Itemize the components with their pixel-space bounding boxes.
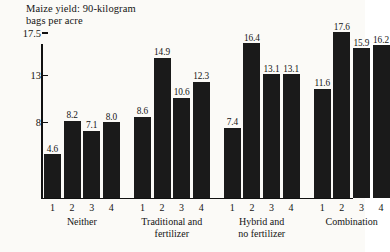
bar-value-label: 8.6 [137,106,148,116]
bar [173,98,190,198]
group-label: Hybrid and no fertilizer [238,216,285,239]
bar-value-label: 14.9 [154,47,170,57]
x-tick-label: 2 [249,202,254,213]
y-tick-mark [42,32,48,34]
bar-value-label: 17.6 [334,22,350,32]
bar-value-label: 13.1 [264,64,280,74]
bar-value-label: 8.0 [106,112,117,122]
bar-value-label: 8.2 [66,110,77,120]
x-tick-label: 4 [109,202,114,213]
x-tick-label: 3 [179,202,184,213]
x-tick-label: 1 [50,202,55,213]
bar [373,45,390,197]
bar [193,82,210,198]
y-tick-mark [42,122,48,124]
x-tick-label: 4 [379,202,384,213]
group-label: Combination [325,216,377,228]
y-tick-mark [42,75,48,77]
x-tick-label: 2 [70,202,75,213]
bar-value-label: 11.6 [314,78,330,88]
bar-value-label: 4.6 [47,144,58,154]
bar [353,48,370,197]
bar-value-label: 12.3 [193,71,209,81]
bar [44,154,61,197]
bar-value-label: 16.2 [373,35,389,45]
bar [263,74,280,197]
bar [64,121,81,198]
group-label: Traditional and fertilizer [141,216,202,239]
y-tick-label: 13 [5,70,41,81]
y-tick-label: 8 [5,117,41,128]
x-tick-label: 4 [199,202,204,213]
x-tick-label: 1 [140,202,145,213]
bar [103,122,120,197]
bar-value-label: 16.4 [244,33,260,43]
x-tick-label: 1 [230,202,235,213]
x-tick-label: 1 [320,202,325,213]
bar-value-label: 15.9 [353,38,369,48]
bar [314,89,331,198]
chart-title: Maize yield: 90-kilogram bags per acre [26,3,256,28]
x-axis-line [41,198,353,200]
x-tick-label: 3 [359,202,364,213]
x-tick-label: 2 [160,202,165,213]
bar [154,58,171,198]
group-label: Neither [67,216,97,228]
bar [243,43,260,197]
x-tick-label: 2 [339,202,344,213]
bar-value-label: 13.1 [283,64,299,74]
bar-value-label: 7.1 [86,120,97,130]
bar-value-label: 7.4 [227,117,238,127]
bar [134,117,151,198]
bar [83,131,100,198]
bar [333,32,350,197]
y-tick-label: 17.5 [5,28,41,39]
bar [224,128,241,198]
x-tick-label: 3 [89,202,94,213]
x-tick-label: 3 [269,202,274,213]
x-tick-label: 4 [289,202,294,213]
bar [283,74,300,197]
bar-value-label: 10.6 [174,87,190,97]
